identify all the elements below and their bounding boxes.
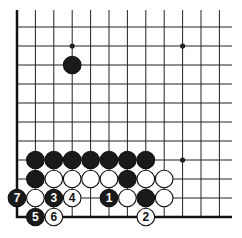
white-stone (27, 189, 45, 207)
black-stone (63, 56, 81, 74)
move-number: 5 (32, 210, 39, 224)
white-stone (45, 170, 63, 188)
black-stone (82, 151, 100, 169)
move-number: 7 (14, 191, 21, 205)
move-number: 1 (106, 191, 113, 205)
move-number: 6 (50, 210, 57, 224)
move-number: 3 (50, 191, 57, 205)
move-number: 2 (142, 210, 149, 224)
black-stone (27, 170, 45, 188)
white-stone (119, 189, 137, 207)
black-stone (63, 151, 81, 169)
white-stone (137, 170, 155, 188)
white-stone (100, 170, 118, 188)
white-stone (155, 170, 173, 188)
go-board-diagram: 7341562 (0, 0, 242, 238)
black-stone (45, 151, 63, 169)
white-stone (63, 170, 81, 188)
black-stone (137, 189, 155, 207)
move-number: 4 (69, 191, 76, 205)
black-stone (137, 151, 155, 169)
go-board-grid: 7341562 (0, 0, 242, 238)
black-stone (100, 151, 118, 169)
black-stone (27, 151, 45, 169)
white-stone (155, 189, 173, 207)
star-point (180, 157, 185, 162)
black-stone (119, 151, 137, 169)
star-point (70, 43, 75, 48)
black-stone (119, 170, 137, 188)
star-point (180, 43, 185, 48)
white-stone (82, 170, 100, 188)
